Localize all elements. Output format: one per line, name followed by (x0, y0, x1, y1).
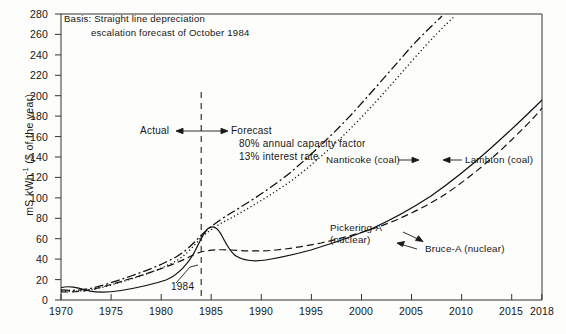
xtick-label-1970: 1970 (39, 305, 83, 317)
annotation-capacity-factor: 80% annual capacity factor (239, 138, 366, 149)
y-axis-label-tail: ($ of the year) (23, 94, 35, 167)
chart-figure: 280 260 240 220 200 180 160 140 120 100 … (0, 0, 566, 334)
ytick-label-20: 20 (18, 274, 48, 286)
series-label-pickering-line-2: (nuclear) (330, 234, 382, 246)
plot-canvas (0, 0, 566, 334)
basis-note: Basis: Straight line depreciation escala… (64, 12, 249, 40)
xtick-label-1985: 1985 (189, 305, 233, 317)
xtick-label-1990: 1990 (239, 305, 283, 317)
y-axis-label-main: mS kWh (23, 174, 35, 215)
xtick-label-2000: 2000 (339, 305, 383, 317)
series-label-pickering: Pickering-A (nuclear) (330, 222, 382, 245)
annotation-divider-year: 1984 (171, 281, 194, 292)
annotation-forecast: Forecast (231, 125, 272, 136)
xtick-label-2018: 2018 (520, 305, 564, 317)
ytick-label-40: 40 (18, 253, 48, 265)
ytick-label-260: 260 (18, 28, 48, 40)
series-label-nanticoke: Nanticoke (coal) (326, 154, 400, 166)
y-axis-label: mS kWh-1 ($ of the year) (21, 80, 35, 230)
series-label-bruce: Bruce-A (nuclear) (425, 243, 505, 255)
ytick-label-240: 240 (18, 49, 48, 61)
actual-forecast-arrows (176, 128, 228, 133)
series-pickering-a-nuclear (61, 100, 542, 292)
series-label-leaders (397, 157, 462, 249)
xtick-label-1995: 1995 (289, 305, 333, 317)
basis-note-line-2: escalation forecast of October 1984 (64, 26, 249, 40)
ytick-label-60: 60 (18, 233, 48, 245)
y-tick-marks (55, 14, 61, 300)
ytick-label-280: 280 (18, 8, 48, 20)
x-tick-marks (61, 294, 542, 300)
annotation-interest-rate: 13% interest rate (239, 151, 319, 162)
series-bruce-a-nuclear (61, 108, 542, 292)
xtick-label-2005: 2005 (389, 305, 433, 317)
basis-note-line-1: Basis: Straight line depreciation (64, 12, 249, 26)
xtick-label-1980: 1980 (139, 305, 183, 317)
series-label-pickering-line-1: Pickering-A (330, 222, 382, 234)
y-axis-label-exponent: -1 (21, 167, 30, 174)
annotation-actual: Actual (140, 125, 169, 136)
xtick-label-1975: 1975 (89, 305, 133, 317)
series-label-lambton: Lambton (coal) (465, 154, 533, 166)
xtick-label-2010: 2010 (439, 305, 483, 317)
